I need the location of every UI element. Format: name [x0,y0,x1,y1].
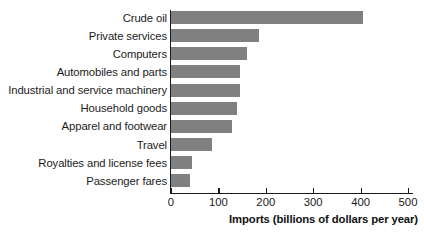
category-axis-labels: Crude oilPrivate servicesComputersAutomo… [0,11,167,193]
bar [171,84,240,97]
bar-chart: Crude oilPrivate servicesComputersAutomo… [0,0,424,232]
category-label: Household goods [0,102,167,115]
x-axis-tick [266,188,267,193]
bar [171,65,240,78]
category-label: Royalties and license fees [0,157,167,170]
x-axis-tick [408,188,409,193]
bar [171,174,190,187]
bar [171,11,363,24]
x-axis-tick [361,188,362,193]
category-label: Crude oil [0,12,167,25]
category-label: Automobiles and parts [0,66,167,79]
bar [171,29,259,42]
y-axis-line [170,10,171,194]
x-axis-tick [218,188,219,193]
x-axis-tick-label: 400 [341,196,381,209]
x-axis-tick [313,188,314,193]
x-axis-tick-label: 0 [151,196,191,209]
plot-area [171,11,412,193]
category-label: Apparel and footwear [0,120,167,133]
category-label: Computers [0,48,167,61]
bar [171,156,192,169]
bar [171,120,232,133]
category-label: Private services [0,30,167,43]
x-axis-tick [171,188,172,193]
category-label: Passenger fares [0,175,167,188]
category-label: Travel [0,139,167,152]
x-axis-tick-label: 300 [293,196,333,209]
x-axis-tick-label: 100 [198,196,238,209]
category-label: Industrial and service machinery [0,84,167,97]
x-axis-tick-label: 200 [246,196,286,209]
bar [171,138,212,151]
x-axis-line [170,193,413,194]
bar [171,102,237,115]
x-axis-tick-label: 500 [388,196,424,209]
x-axis-title: Imports (billions of dollars per year) [0,213,418,225]
bar [171,47,247,60]
